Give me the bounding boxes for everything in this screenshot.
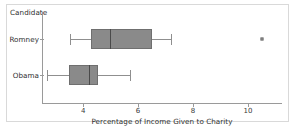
tick-label: 8 (191, 107, 196, 115)
value-axis-title: Percentage of Income Given to Charity (42, 117, 282, 126)
category-label-romney: Romney (9, 35, 39, 44)
tick-label: 10 (243, 107, 252, 115)
category-tick (40, 39, 44, 40)
median-line (89, 65, 90, 85)
whisker-high (152, 39, 170, 40)
whisker-high (98, 75, 130, 76)
whisker-low (70, 39, 91, 40)
cap-low (70, 34, 71, 45)
cap-low (47, 70, 48, 81)
cap-high (171, 34, 172, 45)
median-line (110, 29, 111, 49)
cap-high (130, 70, 131, 81)
category-axis-labels: RomneyObama (0, 0, 39, 131)
box-obama (69, 65, 98, 85)
tick-label: 4 (81, 107, 86, 115)
whisker-low (47, 75, 69, 76)
value-axis-line (42, 103, 282, 104)
tick-label: 6 (136, 107, 141, 115)
plot-area (42, 12, 281, 103)
chart-screenshot: Candidate RomneyObama 46810 Percentage o… (0, 0, 295, 131)
category-label-obama: Obama (13, 71, 39, 80)
box-romney (91, 29, 152, 49)
outlier-point (261, 38, 264, 41)
category-tick (40, 75, 44, 76)
boxplot-layer (42, 12, 281, 103)
